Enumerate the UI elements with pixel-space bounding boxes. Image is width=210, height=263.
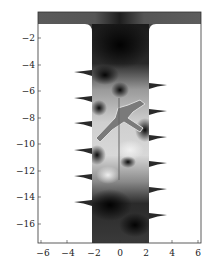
- x-tick-labels: −6 −4 −2 0 2 4 6: [36, 248, 201, 258]
- y-tick-label: −2: [22, 33, 35, 43]
- left-spikes: [74, 70, 92, 206]
- y-tick-label: −10: [16, 139, 35, 149]
- y-tick-labels: −2 −4 −6 −8 −10 −12 −14 −16: [16, 33, 35, 229]
- y-tick-label: −4: [22, 60, 36, 70]
- x-tick-label: 2: [143, 248, 149, 258]
- x-tick-label: −4: [61, 248, 75, 258]
- y-tick-label: −6: [22, 86, 36, 96]
- channel-region: [88, 21, 155, 243]
- x-tick-label: −6: [36, 248, 50, 258]
- y-axis-ticks: [38, 38, 41, 224]
- x-tick-label: 4: [169, 248, 175, 258]
- funnel-right: [149, 24, 156, 32]
- x-tick-label: 6: [195, 248, 201, 258]
- density-plot-figure: −2 −4 −6 −8 −10 −12 −14 −16 −6 −4 −2 0 2…: [0, 0, 210, 263]
- y-tick-label: −16: [16, 219, 35, 229]
- y-tick-label: −12: [16, 166, 35, 176]
- y-tick-label: −14: [16, 192, 35, 202]
- funnel-left: [85, 24, 92, 32]
- x-tick-label: 0: [117, 248, 123, 258]
- right-spikes: [149, 83, 167, 219]
- x-tick-label: −2: [87, 248, 100, 258]
- y-tick-label: −8: [22, 113, 36, 123]
- top-bar-region: [38, 12, 201, 24]
